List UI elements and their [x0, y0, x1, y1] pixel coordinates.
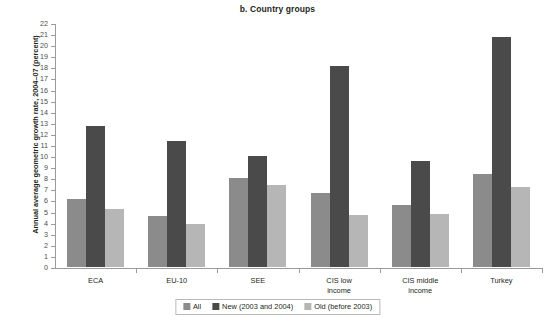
bar-group — [217, 23, 298, 267]
y-axis-tick-label: 14 — [40, 108, 48, 117]
y-axis-tick-label: 8 — [44, 174, 48, 183]
chart-figure: b. Country groups Annual average geometr… — [0, 0, 555, 322]
bar-group — [461, 23, 542, 267]
bar — [492, 37, 511, 267]
bar — [330, 66, 349, 267]
x-axis-category-label-line: SEE — [217, 276, 298, 286]
bar — [67, 199, 86, 267]
bar-group — [55, 23, 136, 267]
x-axis-category-label: Turkey — [461, 276, 542, 286]
x-axis-category-label-line: EU-10 — [136, 276, 217, 286]
bar — [86, 126, 105, 267]
y-axis-tick-label: 6 — [44, 196, 48, 205]
y-axis-tick-label: 1 — [44, 252, 48, 261]
bar — [430, 214, 449, 267]
x-axis-category-label-line: income — [299, 286, 380, 296]
y-axis-tick-label: 13 — [40, 119, 48, 128]
legend-item[interactable]: Old (before 2003) — [304, 302, 372, 311]
x-axis-tick-mark — [136, 268, 137, 273]
y-axis-tick-label: 9 — [44, 163, 48, 172]
bar — [311, 193, 330, 267]
bar — [167, 141, 186, 267]
bar — [349, 215, 368, 267]
bar — [229, 178, 248, 267]
y-axis-tick-label: 0 — [44, 263, 48, 272]
x-axis-category-label: ECA — [55, 276, 136, 286]
bar — [148, 216, 167, 267]
y-axis-tick-label: 20 — [40, 41, 48, 50]
bar-group-bars — [217, 23, 298, 267]
legend-label: New (2003 and 2004) — [222, 302, 293, 311]
y-axis-tick-label: 5 — [44, 208, 48, 217]
legend-label: All — [193, 302, 201, 311]
x-axis-category-label: EU-10 — [136, 276, 217, 286]
bar — [248, 156, 267, 267]
legend-item[interactable]: New (2003 and 2004) — [212, 302, 293, 311]
x-axis-tick-mark — [542, 268, 543, 273]
bar-group-bars — [55, 23, 136, 267]
chart-legend: AllNew (2003 and 2004)Old (before 2003) — [175, 299, 380, 315]
x-axis-category-label: CIS middleincome — [380, 276, 461, 296]
y-axis-tick-label: 4 — [44, 219, 48, 228]
x-axis-category-label-line: CIS middle — [380, 276, 461, 286]
x-axis-category-label-line: CIS low — [299, 276, 380, 286]
x-axis-category-label-line: Turkey — [461, 276, 542, 286]
bar — [411, 161, 430, 267]
x-axis-category-label-line: income — [380, 286, 461, 296]
bar-group — [380, 23, 461, 267]
x-axis-tick-mark — [217, 268, 218, 273]
bar — [511, 187, 530, 267]
bar — [473, 174, 492, 267]
y-axis-tick-label: 7 — [44, 185, 48, 194]
y-axis-tick-label: 12 — [40, 130, 48, 139]
x-axis-tick-mark — [380, 268, 381, 273]
bar — [392, 205, 411, 267]
bar-group-bars — [136, 23, 217, 267]
legend-swatch-icon — [183, 303, 190, 310]
x-axis-tick-mark — [299, 268, 300, 273]
bar-group — [136, 23, 217, 267]
y-axis-tick-label: 15 — [40, 97, 48, 106]
y-axis-tick-mark — [51, 268, 55, 269]
bar — [105, 209, 124, 267]
legend-label: Old (before 2003) — [314, 302, 372, 311]
x-axis-category-label: SEE — [217, 276, 298, 286]
bar — [186, 224, 205, 267]
bar-group-bars — [299, 23, 380, 267]
legend-item[interactable]: All — [183, 302, 201, 311]
y-axis-tick-label: 21 — [40, 30, 48, 39]
y-axis-title: Annual average geometric growth rate, 20… — [31, 5, 40, 265]
y-axis-tick-label: 17 — [40, 74, 48, 83]
legend-swatch-icon — [304, 303, 311, 310]
bar — [267, 185, 286, 267]
x-axis-category-label-line: ECA — [55, 276, 136, 286]
y-axis-tick-label: 18 — [40, 63, 48, 72]
x-axis-tick-mark — [461, 268, 462, 273]
y-axis-tick-label: 16 — [40, 86, 48, 95]
y-axis-tick-label: 3 — [44, 230, 48, 239]
x-axis-category-label: CIS lowincome — [299, 276, 380, 296]
legend-swatch-icon — [212, 303, 219, 310]
y-axis-tick-label: 11 — [41, 141, 48, 150]
bar-group-bars — [380, 23, 461, 267]
y-axis-tick-label: 10 — [40, 152, 48, 161]
bar-group-bars — [461, 23, 542, 267]
bar-group — [299, 23, 380, 267]
chart-title: b. Country groups — [0, 4, 555, 14]
y-axis-tick-label: 2 — [44, 241, 48, 250]
y-axis-tick-label: 19 — [40, 52, 48, 61]
plot-area: 012345678910111213141516171819202122 ECA… — [55, 24, 542, 268]
y-axis-tick-label: 22 — [40, 19, 48, 28]
